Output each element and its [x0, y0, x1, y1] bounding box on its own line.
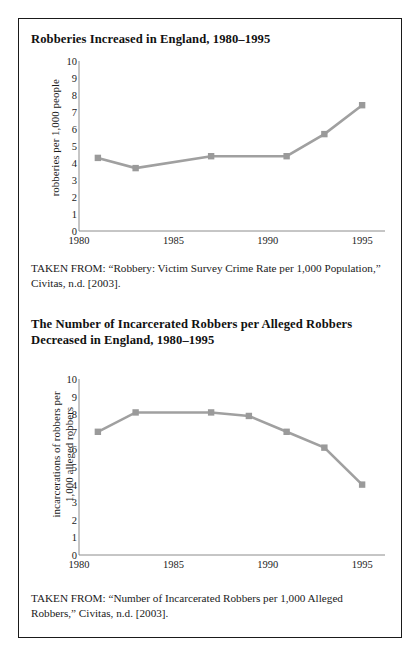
x-tick-label: 1990: [257, 235, 278, 246]
chart-1-title: Robberies Increased in England, 1980–199…: [31, 31, 387, 47]
chart-1: robberies per 1,000 people 012345678910 …: [31, 53, 391, 253]
chart-2-title: The Number of Incarcerated Robbers per A…: [31, 316, 387, 348]
x-tick-label: 1990: [257, 559, 278, 570]
data-point-marker: [359, 102, 365, 108]
chart-1-plot: [31, 53, 391, 253]
chart-2-plot: [31, 369, 391, 581]
figure-border-box: Robberies Increased in England, 1980–199…: [18, 18, 402, 638]
data-point-marker: [283, 429, 289, 435]
x-tick-label: 1995: [352, 559, 373, 570]
x-tick-label: 1985: [163, 235, 184, 246]
data-point-marker: [95, 155, 101, 161]
data-point-marker: [208, 409, 214, 415]
x-tick-label: 1995: [352, 235, 373, 246]
data-point-marker: [283, 153, 289, 159]
chart-1-source-note: TAKEN FROM: “Robbery: Victim Survey Crim…: [31, 261, 381, 291]
data-point-marker: [95, 429, 101, 435]
chart-2-source-note: TAKEN FROM: “Number of Incarcerated Robb…: [31, 591, 383, 621]
x-tick-label: 1980: [69, 559, 90, 570]
data-point-marker: [132, 409, 138, 415]
x-tick-label: 1980: [69, 235, 90, 246]
data-point-marker: [132, 165, 138, 171]
data-point-marker: [208, 153, 214, 159]
figure-page: Robberies Increased in England, 1980–199…: [0, 0, 420, 654]
x-tick-label: 1985: [163, 559, 184, 570]
data-point-marker: [246, 413, 252, 419]
chart-2: incarcerations of robbers per 1,000 alle…: [31, 369, 391, 581]
data-point-marker: [321, 444, 327, 450]
data-point-marker: [359, 481, 365, 487]
data-point-marker: [321, 131, 327, 137]
